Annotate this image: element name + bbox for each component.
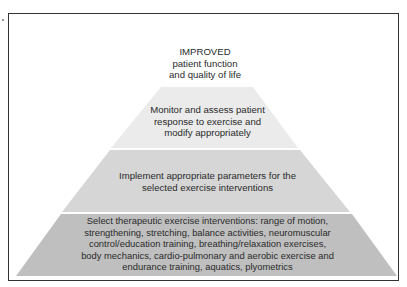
apex-line: IMPROVED: [130, 46, 280, 58]
apex-line: and quality of life: [130, 69, 280, 81]
apex-line: patient function: [130, 58, 280, 70]
layer-line: Monitor and assess patient: [150, 104, 265, 116]
layer-line: Implement appropriate parameters for the: [110, 170, 305, 182]
layer-top-label: Monitor and assess patient response to e…: [150, 104, 265, 139]
layer-line: endurance training, aquatics, plyometric…: [45, 261, 370, 273]
layer-base-label: Select therapeutic exercise intervention…: [45, 215, 370, 273]
layer-line: modify appropriately: [150, 127, 265, 139]
apex-label: IMPROVED patient function and quality of…: [130, 46, 280, 81]
layer-line: response to exercise and: [150, 116, 265, 128]
layer-line: Select therapeutic exercise intervention…: [45, 215, 370, 227]
layer-middle-label: Implement appropriate parameters for the…: [110, 170, 305, 193]
layer-line: selected exercise interventions: [110, 182, 305, 194]
layer-line: control/education training, breathing/re…: [45, 238, 370, 250]
layer-line: strengthening, stretching, balance activ…: [45, 227, 370, 239]
layer-line: body mechanics, cardio-pulmonary and aer…: [45, 250, 370, 262]
